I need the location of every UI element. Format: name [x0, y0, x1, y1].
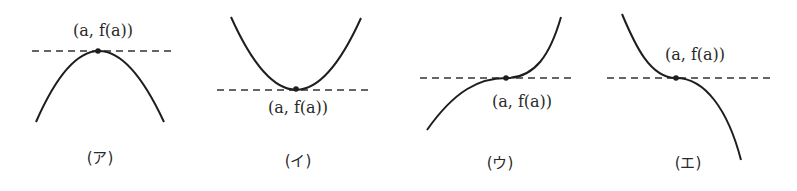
point-label-a: (a, f(a)): [73, 21, 133, 40]
caption-u: (ウ): [487, 151, 514, 172]
graph-e: [607, 14, 773, 160]
graph-u: [420, 17, 574, 130]
curve-a: [36, 51, 164, 122]
curve-i: [231, 17, 361, 90]
caption-i: (イ): [285, 149, 312, 170]
graph-a: [32, 48, 171, 122]
point-label-e: (a, f(a)): [665, 45, 725, 64]
curve-u: [427, 17, 561, 130]
point-i: [293, 86, 299, 92]
point-label-u: (a, f(a)): [492, 92, 552, 111]
point-label-i: (a, f(a)): [268, 98, 328, 117]
caption-e: (エ): [675, 151, 702, 172]
point-a: [95, 48, 101, 54]
point-e: [673, 75, 679, 81]
curve-e: [622, 14, 741, 160]
point-u: [503, 75, 509, 81]
graph-i: [217, 17, 372, 92]
caption-a: (ア): [87, 146, 114, 167]
